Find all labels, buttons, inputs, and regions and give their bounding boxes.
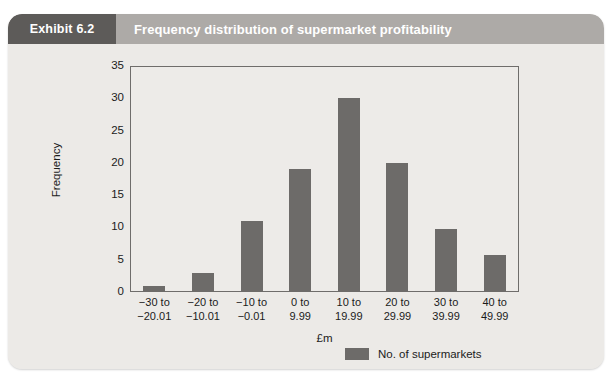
y-tick-label: 20 [94,157,124,169]
y-tick-label: 25 [94,125,124,137]
x-axis-title: £m [130,332,519,344]
bar-slot [373,66,422,292]
bar-slot [227,66,276,292]
exhibit-tag-label: Exhibit 6.2 [8,14,116,44]
y-tick-label: 30 [94,93,124,105]
y-tick-label: 10 [94,222,124,234]
bar[interactable] [143,286,165,292]
x-tick-label: 40 to49.99 [465,296,525,324]
y-tick-label: 0 [94,286,124,298]
bar[interactable] [289,169,311,292]
legend-swatch-icon [345,348,369,360]
bar[interactable] [386,163,408,292]
bars-layer [130,66,519,292]
bar[interactable] [435,229,457,292]
y-tick-label: 5 [94,254,124,266]
bar-slot [130,66,179,292]
exhibit-caption: Frequency distribution of supermarket pr… [116,14,604,44]
chart-body: distribution of supermarket loss Frequen… [8,44,604,369]
bar[interactable] [338,98,360,292]
exhibit-header: Exhibit 6.2 Frequency distribution of su… [8,14,604,44]
y-tick-label: 15 [94,189,124,201]
bar[interactable] [192,273,214,292]
bar-slot [470,66,519,292]
y-axis-tick-labels: 05101520253035 [92,66,124,292]
x-axis-tick-labels: −30 to−20.01−20 to−10.01−10 to−0.010 to9… [130,296,519,328]
bar-slot [276,66,325,292]
bar[interactable] [484,255,506,292]
y-tick-label: 35 [94,60,124,72]
exhibit-card: Exhibit 6.2 Frequency distribution of su… [8,14,604,369]
bar-slot [179,66,228,292]
y-axis-title: Frequency [50,110,62,230]
chart-legend: No. of supermarkets [345,348,482,360]
legend-label: No. of supermarkets [378,348,482,360]
bar[interactable] [241,221,263,292]
bar-slot [325,66,374,292]
bar-slot [422,66,471,292]
